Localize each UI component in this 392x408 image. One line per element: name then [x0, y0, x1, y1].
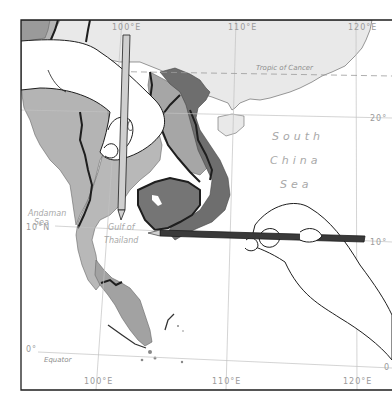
andaman-sea-label-1: Andaman	[27, 209, 66, 218]
south-china-sea-label-1: South	[272, 130, 324, 143]
label-0: 0°	[26, 345, 37, 354]
equator-label: Equator	[44, 356, 73, 364]
label-110e-bottom: 110°E	[212, 377, 241, 386]
south-china-sea-label-3: Sea	[280, 178, 313, 191]
andaman-sea-label-2: Sea	[34, 218, 49, 227]
label-100e-top: 100°E	[112, 23, 141, 32]
tropic-of-cancer-label: Tropic of Cancer	[256, 64, 314, 72]
gulf-of-thailand-label-1: Gulf of	[108, 223, 136, 232]
label-100e-bottom: 100°E	[84, 377, 113, 386]
label-0-right: 0	[384, 363, 390, 372]
south-china-sea-label-2: China	[270, 154, 321, 167]
label-120e-top: 120°E	[348, 23, 377, 32]
label-120e-bottom: 120°E	[343, 377, 372, 386]
map-of-southeast-asia: 100°E 110°E 120°E 100°E 110°E 120°E 20° …	[0, 0, 392, 408]
label-10-right: 10°	[370, 238, 387, 247]
label-20n: 20°	[370, 114, 387, 123]
gulf-of-thailand-label-2: Thailand	[104, 236, 139, 245]
label-110e-top: 110°E	[228, 23, 257, 32]
